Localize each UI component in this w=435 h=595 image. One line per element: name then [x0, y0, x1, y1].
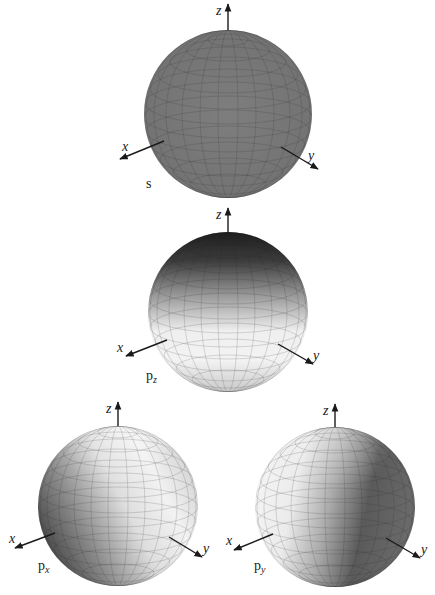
orbital-label-py: py: [254, 558, 266, 575]
orbital-label-s: s: [146, 176, 151, 191]
pz-orbital: z x y pz: [116, 207, 320, 392]
orbital-figure: z x y s: [0, 0, 435, 595]
z-axis-label: z: [105, 401, 112, 416]
orbital-label-px: px: [38, 558, 50, 575]
x-axis-label: x: [8, 531, 16, 546]
s-orbital: z x y s: [120, 3, 318, 198]
x-axis-label: x: [225, 533, 233, 548]
y-axis-label: y: [201, 541, 210, 556]
y-axis-label: y: [419, 542, 428, 557]
y-axis-label: y: [311, 348, 320, 363]
py-orbital: z x y py: [225, 403, 428, 587]
px-orbital: z x y px: [8, 401, 210, 586]
y-axis-label: y: [306, 148, 315, 163]
z-axis-label: z: [322, 403, 329, 418]
z-axis-label: z: [215, 3, 222, 18]
x-axis-label: x: [121, 139, 129, 154]
x-axis-label: x: [116, 340, 124, 355]
z-axis-label: z: [215, 207, 222, 222]
orbital-label-pz: pz: [146, 368, 157, 385]
